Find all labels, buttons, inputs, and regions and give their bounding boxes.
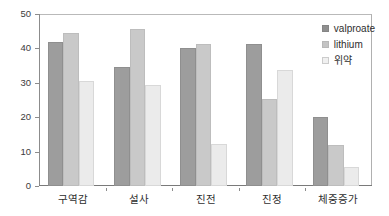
bar-valproate-설사 <box>114 67 130 186</box>
bar-위약-설사 <box>145 85 161 186</box>
bar-lithium-진전 <box>196 44 212 186</box>
y-tick-label: 0 <box>26 180 31 191</box>
bar-lithium-진정 <box>262 99 278 186</box>
bar-위약-진정 <box>277 70 293 186</box>
x-axis-label-체중증가: 체중증가 <box>318 193 358 206</box>
bar-group <box>48 14 95 186</box>
legend-label: 위약 <box>334 55 352 67</box>
bar-group <box>180 14 227 186</box>
y-axis: 01020304050 <box>0 0 39 216</box>
chart-legend: valproatelithium위약 <box>322 22 375 67</box>
x-axis-label-진정: 진정 <box>262 193 282 206</box>
bar-위약-진전 <box>211 144 227 186</box>
y-tick-label: 50 <box>20 8 31 19</box>
x-axis-label-설사: 설사 <box>129 193 149 206</box>
legend-swatch-icon <box>322 57 329 64</box>
bar-위약-구역감 <box>79 81 95 186</box>
legend-label: valproate <box>334 23 375 35</box>
legend-swatch-icon <box>322 25 329 32</box>
y-tick-mark <box>35 186 39 187</box>
legend-label: lithium <box>334 39 363 51</box>
bar-valproate-구역감 <box>48 42 64 186</box>
legend-item-valproate[interactable]: valproate <box>322 22 375 35</box>
x-tick-mark <box>106 188 107 191</box>
x-tick-mark <box>172 188 173 191</box>
bar-group <box>114 14 161 186</box>
legend-item-lithium[interactable]: lithium <box>322 38 375 51</box>
bar-valproate-진전 <box>180 48 196 186</box>
bar-lithium-체중증가 <box>328 145 344 186</box>
x-axis: 구역감설사진전진정체중증가 <box>40 188 371 214</box>
legend-swatch-icon <box>322 41 329 48</box>
bar-valproate-진정 <box>246 44 262 186</box>
bar-group <box>246 14 293 186</box>
x-axis-label-구역감: 구역감 <box>58 193 88 206</box>
bar-위약-체중증가 <box>344 167 360 186</box>
bar-chart: 01020304050 구역감설사진전진정체중증가 valproatelithi… <box>0 0 389 216</box>
x-tick-mark <box>239 188 240 191</box>
y-tick-label: 20 <box>20 111 31 122</box>
x-tick-mark <box>305 188 306 191</box>
y-tick-label: 40 <box>20 42 31 53</box>
legend-item-위약[interactable]: 위약 <box>322 54 375 67</box>
x-axis-label-진전: 진전 <box>196 193 216 206</box>
y-tick-label: 30 <box>20 77 31 88</box>
bar-lithium-설사 <box>130 29 146 186</box>
bar-lithium-구역감 <box>63 33 79 186</box>
y-tick-label: 10 <box>20 146 31 157</box>
bar-valproate-체중증가 <box>313 117 329 186</box>
